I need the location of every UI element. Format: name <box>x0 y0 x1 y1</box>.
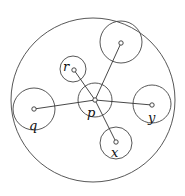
edge-p-q <box>34 100 95 109</box>
label-p: p <box>87 105 96 120</box>
edge-p-x <box>95 100 116 142</box>
edge-p-top <box>95 43 121 100</box>
node-y <box>150 103 154 107</box>
node-r <box>72 68 76 72</box>
node-labels: prqyx <box>29 59 156 160</box>
node-x <box>114 140 118 144</box>
circle-packing-diagram: prqyx <box>0 0 185 196</box>
label-x: x <box>111 145 119 160</box>
label-q: q <box>29 118 37 133</box>
label-r: r <box>63 59 70 74</box>
node-top <box>119 41 123 45</box>
node-p <box>93 98 97 102</box>
node-circles <box>13 21 171 159</box>
node-q <box>32 107 36 111</box>
edge-p-y <box>95 100 152 105</box>
label-y: y <box>147 110 156 125</box>
